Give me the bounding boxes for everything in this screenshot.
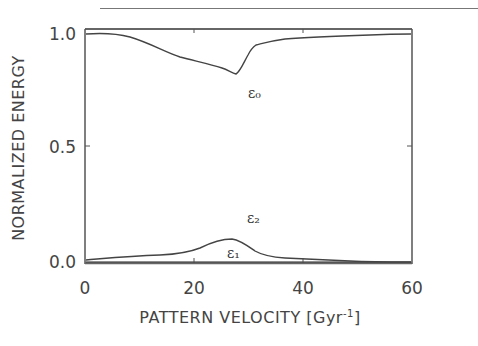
ticks	[85, 29, 412, 263]
x-tick-0: 0	[80, 278, 91, 298]
label-epsilon-0: ε₀	[248, 85, 261, 101]
label-epsilon-1: ε₁	[227, 245, 240, 261]
curve-epsilon-2	[86, 239, 411, 262]
label-epsilon-2: ε₂	[247, 210, 260, 226]
x-tick-40: 40	[292, 278, 314, 298]
x-axis-title: PATTERN VELOCITY [Gyr-1]	[139, 308, 360, 327]
y-tick-1: 1.0	[49, 24, 76, 44]
x-tick-60: 60	[401, 278, 423, 298]
chart: 1.0 0.5 0.0 0 20 40 60 PATTERN VELOCITY …	[0, 0, 478, 346]
y-tick-0-5: 0.5	[49, 137, 76, 157]
plot-frame	[85, 29, 412, 264]
curve-epsilon-0	[86, 33, 411, 74]
y-tick-0: 0.0	[49, 252, 76, 272]
x-tick-20: 20	[183, 278, 205, 298]
y-axis-title: NORMALIZED ENERGY	[9, 55, 28, 241]
